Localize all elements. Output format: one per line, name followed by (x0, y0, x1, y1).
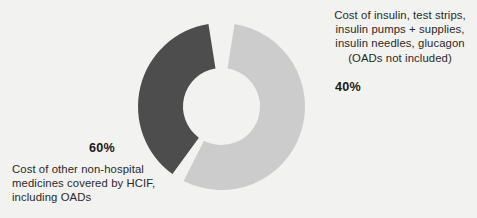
percent-label-60: 60% (89, 141, 115, 155)
callout-line: (OADs not included) (324, 51, 476, 65)
callout-line: Cost of other non-hospital (12, 162, 202, 176)
callout-line: medicines covered by HCIF, (12, 176, 202, 190)
callout-line: including OADs (12, 190, 202, 204)
callout-insulin-costs: Cost of insulin, test strips, insulin pu… (324, 8, 476, 65)
callout-line: insulin pumps + supplies, (324, 22, 476, 36)
callout-line: Cost of insulin, test strips, (324, 8, 476, 22)
callout-other-medicines: Cost of other non-hospital medicines cov… (12, 162, 202, 205)
percent-label-40: 40% (335, 80, 361, 94)
donut-chart-figure: Cost of insulin, test strips, insulin pu… (0, 0, 477, 218)
callout-line: insulin needles, glucagon (324, 36, 476, 50)
